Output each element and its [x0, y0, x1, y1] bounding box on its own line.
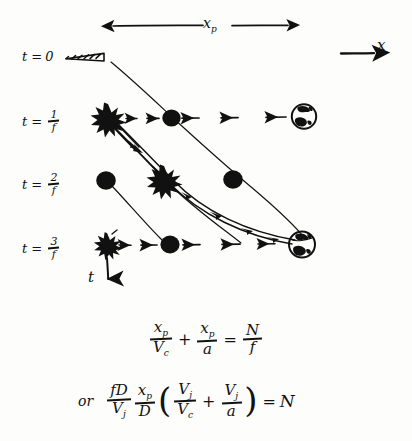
light-path-curve	[110, 120, 295, 244]
time-label-row3: t = 3 f	[22, 237, 59, 261]
time-axis-label: t	[88, 270, 94, 285]
starburst-icon-row3	[94, 230, 123, 260]
eq1-plus: +	[178, 330, 191, 349]
earth-globe-row1	[292, 104, 316, 128]
starburst-icon-row1	[91, 103, 127, 138]
equation-1: xp Vc + xp a = N f	[148, 320, 264, 359]
eq2-open-paren: (	[158, 387, 171, 414]
time-frac-num-row3: 3	[48, 236, 59, 247]
x-axis-label: x	[377, 36, 385, 54]
eq2-term-xp-over-d: xp D	[135, 383, 155, 419]
time-frac-den-row1: f	[50, 122, 58, 133]
time-axis-arrow	[107, 258, 108, 279]
pulse-blob-row3	[160, 236, 179, 254]
time-label-row1: t = 1 f	[22, 110, 59, 134]
equation-2: or fD Vj xp D ( Vj Vc + Vj a ) = N	[78, 382, 295, 421]
time-label-row0: t =0	[22, 50, 54, 63]
worldline-a	[111, 62, 303, 236]
eq2-term-vj-over-vc: Vj Vc	[174, 382, 196, 421]
pulse-blob-row2-left	[96, 171, 116, 189]
eq2-prefix-or: or	[78, 393, 93, 409]
emitter-cone-icon	[66, 53, 104, 61]
xp-label: xp	[203, 15, 217, 34]
eq2-close-paren: )	[244, 387, 257, 414]
time-frac-num-row1: 1	[48, 109, 59, 120]
eq2-term-fd-over-vj: fD Vj	[107, 383, 131, 419]
pulse-blob-row1	[162, 109, 180, 126]
eq2-plus: +	[202, 392, 215, 411]
time-frac-den-row2: f	[50, 185, 58, 196]
eq1-term-xp-over-a: xp a	[197, 321, 217, 357]
earth-globe-row3	[289, 232, 315, 258]
eq1-equals: =	[224, 330, 237, 349]
row-3f-signal-arrows	[119, 244, 275, 245]
pulse-blob-row2-right	[223, 170, 243, 188]
xp-span-arrow	[113, 25, 288, 26]
figure-canvas: xp x t =0 t = 1 f t = 2 f t = 3 f t	[0, 0, 412, 441]
time-frac-num-row2: 2	[48, 172, 59, 183]
diagram-artwork	[0, 0, 412, 441]
time-frac-den-row3: f	[50, 249, 58, 260]
row-1f-signal-arrows	[126, 117, 286, 119]
eq2-result-n: N	[280, 391, 295, 411]
eq1-term-xp-over-vc: xp Vc	[150, 320, 172, 359]
eq2-term-vj-over-a: Vj a	[222, 383, 242, 419]
time-label-row2: t = 2 f	[22, 173, 59, 197]
eq1-term-n-over-f: N f	[243, 323, 262, 356]
eq2-equals: =	[262, 392, 275, 411]
worldline-c	[112, 186, 168, 245]
starburst-icon-row2	[147, 165, 183, 200]
